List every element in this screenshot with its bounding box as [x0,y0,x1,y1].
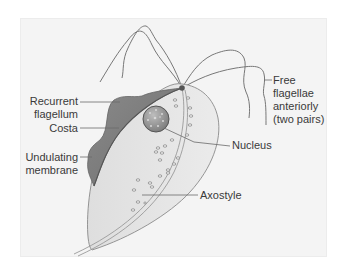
label-costa: Costa [22,122,78,135]
label-recurrent-flagellum: Recurrent flagellum [22,95,78,121]
blepharoplast [179,85,185,91]
label-undulating-membrane: Undulating membrane [16,151,78,177]
label-nucleus: Nucleus [232,139,272,152]
label-axostyle: Axostyle [200,189,242,202]
label-free-flagellae: Free flagellae anteriorly (two pairs) [273,74,324,126]
trichomonas-diagram [0,0,340,271]
